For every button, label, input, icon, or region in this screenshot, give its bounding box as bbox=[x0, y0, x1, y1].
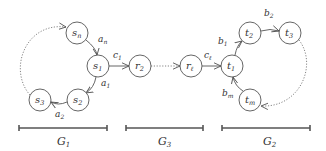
edge-t3-tm-dotted bbox=[261, 40, 307, 106]
node-s3: s3 bbox=[29, 89, 51, 111]
group-bar-g3: G3 bbox=[126, 125, 203, 149]
group-label-g3: G3 bbox=[158, 135, 172, 149]
edge-label-bm: bm bbox=[222, 88, 234, 99]
group-label-g2: G2 bbox=[263, 135, 277, 149]
node-s2: s2 bbox=[67, 89, 89, 111]
edge-s1-s2 bbox=[86, 77, 96, 93]
edge-label-an: an bbox=[98, 34, 107, 45]
edge-label-b2: b2 bbox=[264, 8, 274, 19]
edge-s3-sn-dotted bbox=[20, 27, 66, 95]
edge-label-cl: cℓ bbox=[204, 50, 212, 61]
edge-tm-t1 bbox=[233, 77, 243, 91]
edge-s2-s3 bbox=[51, 102, 67, 104]
edge-label-a1: a1 bbox=[101, 78, 110, 89]
node-rl: rℓ bbox=[180, 55, 202, 77]
group-label-g1: G1 bbox=[57, 135, 70, 149]
node-sn: sn bbox=[66, 22, 88, 44]
group-bar-g1: G1 bbox=[19, 125, 107, 149]
node-s1: s1 bbox=[87, 55, 109, 77]
node-t1: t1 bbox=[221, 55, 243, 77]
edge-label-b1: b1 bbox=[218, 36, 228, 47]
edge-label-a2: a2 bbox=[55, 109, 64, 120]
edge-t1-t2 bbox=[235, 41, 242, 55]
edge-sn-s1 bbox=[86, 40, 97, 55]
edge-label-c1: c1 bbox=[113, 50, 122, 61]
edge-t2-t3 bbox=[261, 30, 279, 32]
node-r2: r2 bbox=[129, 55, 151, 77]
group-bar-g2: G2 bbox=[222, 125, 310, 149]
node-t3: t3 bbox=[279, 22, 301, 44]
node-tm: tm bbox=[239, 89, 261, 111]
node-t2: t2 bbox=[239, 22, 261, 44]
diagram-canvas: sns1s2s3r2rℓt1t2t3tm an a1 a2 c1 cℓ b1 b… bbox=[0, 0, 326, 151]
